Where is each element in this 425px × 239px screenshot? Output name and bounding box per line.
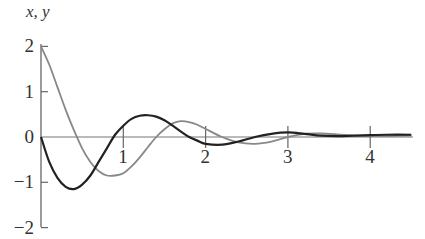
y-tick-label: 1 bbox=[25, 81, 35, 103]
x-tick-label: 3 bbox=[283, 146, 293, 168]
y-tick-label: −1 bbox=[14, 171, 34, 193]
y-axis-label: x, y bbox=[26, 2, 50, 22]
x-tick-label: 2 bbox=[201, 146, 211, 168]
series-y-line bbox=[41, 115, 411, 189]
plot-area bbox=[0, 0, 425, 239]
x-tick-label: 4 bbox=[365, 146, 375, 168]
series-x-line bbox=[41, 46, 411, 176]
x-tick-label: 1 bbox=[118, 146, 128, 168]
y-tick-label: 0 bbox=[25, 126, 35, 148]
y-tick-label: 2 bbox=[25, 35, 35, 57]
y-tick-label: −2 bbox=[14, 217, 34, 239]
chart: x, y 210−1−2 1234 bbox=[0, 0, 425, 239]
